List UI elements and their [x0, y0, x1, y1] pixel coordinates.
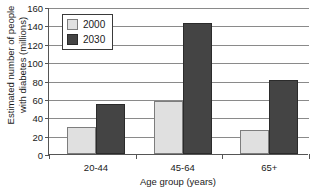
plot-area: 020406080100120140160 20-4445-6465+ 2000… [48, 8, 308, 155]
bar-2000-65+ [240, 130, 269, 154]
chart-title [96, 0, 266, 2]
x-axis-title: Age group (years) [48, 176, 308, 187]
y-tick-label: 120 [3, 39, 43, 50]
y-tick-label: 80 [3, 76, 43, 87]
x-tick-label: 65+ [261, 162, 277, 173]
y-tick-mark [45, 8, 49, 9]
y-tick-mark [45, 137, 49, 138]
y-tick-label: 0 [3, 150, 43, 161]
bar-2030-20-44 [96, 104, 125, 154]
legend-label-2000: 2000 [83, 19, 105, 30]
gridline [49, 8, 309, 9]
y-tick-label: 20 [3, 131, 43, 142]
y-tick-label: 60 [3, 94, 43, 105]
y-tick-mark [45, 118, 49, 119]
x-tick-label: 45-64 [171, 162, 195, 173]
y-tick-label: 160 [3, 3, 43, 14]
x-tick-mark [222, 154, 223, 159]
legend-item: 2000 [67, 18, 105, 31]
bar-2030-65+ [269, 80, 298, 154]
legend: 2000 2030 [62, 14, 113, 50]
x-tick-mark [136, 154, 137, 159]
x-tick-mark [49, 154, 50, 159]
y-tick-mark [45, 82, 49, 83]
y-tick-mark [45, 100, 49, 101]
x-tick-label: 20-44 [84, 162, 108, 173]
gridline [49, 63, 309, 64]
bar-2000-20-44 [67, 127, 96, 154]
y-tick-label: 140 [3, 21, 43, 32]
y-tick-mark [45, 63, 49, 64]
x-tick-mark [309, 154, 310, 159]
y-tick-mark [45, 26, 49, 27]
legend-swatch-2000 [67, 19, 78, 30]
y-tick-label: 100 [3, 58, 43, 69]
bar-chart-figure: Estimated number of people with diabetes… [0, 0, 316, 191]
legend-item: 2030 [67, 33, 105, 46]
y-tick-label: 40 [3, 113, 43, 124]
y-tick-mark [45, 45, 49, 46]
bar-2030-45-64 [183, 23, 212, 154]
legend-label-2030: 2030 [83, 34, 105, 45]
legend-swatch-2030 [67, 34, 78, 45]
bar-2000-45-64 [154, 101, 183, 154]
